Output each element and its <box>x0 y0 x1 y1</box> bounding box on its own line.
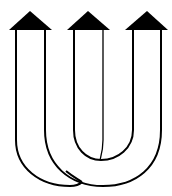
arrow-right-head-icon <box>125 11 168 30</box>
band-outer-left-line <box>16 30 82 186</box>
arrow-left-head-icon <box>9 11 52 30</box>
band-middle-divider-line <box>100 30 103 160</box>
arrow-middle-head-icon <box>67 11 110 30</box>
arrow-u-diagram <box>0 0 172 196</box>
